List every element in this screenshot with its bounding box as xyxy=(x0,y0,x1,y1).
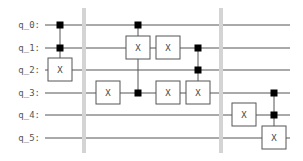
control-dot-icon xyxy=(57,22,64,29)
qubit-label-q4: q_4: xyxy=(18,110,40,120)
qubit-label-q2: q_2: xyxy=(18,65,40,75)
x-gate-label: X xyxy=(271,133,277,143)
control-dot-icon xyxy=(135,22,142,29)
control-dot-icon xyxy=(195,45,202,52)
qubit-label-q3: q_3: xyxy=(18,88,40,98)
control-dot-icon xyxy=(271,90,278,97)
quantum-circuit-diagram: q_0:q_1:q_2:q_3:q_4:q_5: XXXXXXXX xyxy=(0,0,303,161)
qubit-labels: q_0:q_1:q_2:q_3:q_4:q_5: xyxy=(18,20,40,143)
qubit-label-q0: q_0: xyxy=(18,20,40,30)
x-gate-label: X xyxy=(165,43,171,53)
control-dot-icon xyxy=(57,45,64,52)
x-gate-label: X xyxy=(241,110,247,120)
qubit-label-q5: q_5: xyxy=(18,133,40,143)
x-gate-label: X xyxy=(135,43,141,53)
qubit-label-q1: q_1: xyxy=(18,43,40,53)
barrier-0 xyxy=(82,8,86,153)
control-dot-icon xyxy=(135,90,142,97)
x-gate-label: X xyxy=(195,88,201,98)
control-dot-icon xyxy=(195,67,202,74)
x-gate-label: X xyxy=(165,88,171,98)
x-gate-label: X xyxy=(105,88,111,98)
x-gate-label: X xyxy=(57,65,63,75)
barrier-1 xyxy=(219,8,223,153)
control-dot-icon xyxy=(271,112,278,119)
